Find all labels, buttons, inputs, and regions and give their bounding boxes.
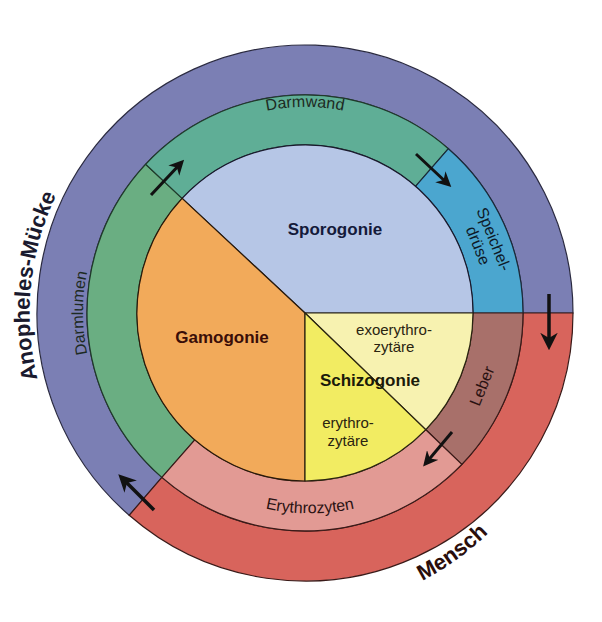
malaria-life-cycle-diagram: Anopheles-Mücke Mensch Darmwand Darmlume… <box>0 0 602 622</box>
sporogonie-label: Sporogonie <box>288 220 382 239</box>
exoerythrozytaer-label-line1: exoerythro- <box>356 321 432 338</box>
erythrozytaer-label-line2: zytäre <box>328 432 369 449</box>
exoerythrozytaer-label-line2: zytäre <box>374 338 415 355</box>
gamogonie-label: Gamogonie <box>175 328 269 347</box>
inner-circle <box>137 145 473 481</box>
schizogonie-label: Schizogonie <box>320 371 420 390</box>
erythrozytaer-label-line1: erythro- <box>322 414 374 431</box>
